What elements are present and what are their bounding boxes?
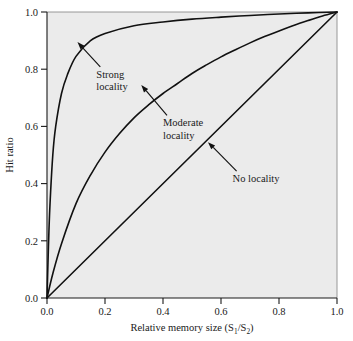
annotation-strong-locality-line2: locality: [96, 81, 128, 92]
x-tick-labels: 0.0 0.2 0.4 0.6 0.8 1.0: [40, 306, 343, 317]
x-tick-label-5: 1.0: [330, 306, 343, 317]
annotation-moderate-locality-line2: locality: [163, 130, 195, 141]
annotation-strong-locality-line1: Strong: [96, 69, 125, 80]
y-tick-label-2: 0.4: [25, 178, 39, 189]
y-tick-label-4: 0.8: [25, 64, 38, 75]
x-tick-label-4: 0.8: [272, 306, 285, 317]
figure-container: 0.0 0.2 0.4 0.6 0.8 1.0 0.0 0.2 0.4 0.6 …: [0, 0, 353, 341]
x-axis-ticks: [47, 298, 337, 304]
y-tick-label-1: 0.2: [25, 236, 38, 247]
x-tick-label-3: 0.6: [214, 306, 227, 317]
x-tick-label-0: 0.0: [40, 306, 53, 317]
y-tick-labels: 0.0 0.2 0.4 0.6 0.8 1.0: [25, 7, 39, 304]
y-axis-label: Hit ratio: [4, 137, 15, 172]
annotation-moderate-locality-line1: Moderate: [163, 117, 204, 128]
y-axis-ticks: [41, 12, 47, 298]
x-tick-label-2: 0.4: [156, 306, 170, 317]
x-axis-label-main: Relative memory size (S: [130, 322, 234, 334]
y-tick-label-3: 0.6: [25, 121, 38, 132]
annotation-no-locality-line1: No locality: [233, 173, 281, 184]
x-axis-label-close: ): [250, 322, 254, 334]
y-tick-label-0: 0.0: [25, 293, 38, 304]
x-axis-label: Relative memory size (S1/S2): [130, 322, 254, 336]
x-tick-label-1: 0.2: [98, 306, 111, 317]
y-tick-label-5: 1.0: [25, 7, 38, 18]
hit-ratio-chart: 0.0 0.2 0.4 0.6 0.8 1.0 0.0 0.2 0.4 0.6 …: [0, 0, 353, 341]
x-axis-label-slash: /S: [238, 322, 247, 333]
